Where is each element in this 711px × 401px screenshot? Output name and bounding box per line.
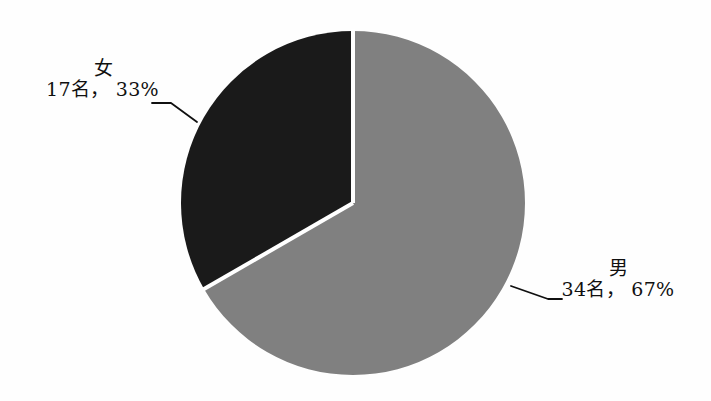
data-label-male-value: 34名， 67% [552,279,684,300]
leader-line-female [152,103,197,122]
data-label-female-value: 17名， 33% [30,79,175,100]
pie-chart-figure: 女 17名， 33% 男 34名， 67% [0,0,711,401]
data-label-female-name: 女 [32,58,175,79]
data-label-male: 男 34名， 67% [552,258,684,301]
data-label-female: 女 17名， 33% [30,58,175,101]
data-label-male-name: 男 [554,258,684,279]
